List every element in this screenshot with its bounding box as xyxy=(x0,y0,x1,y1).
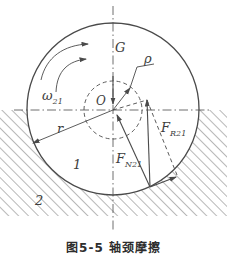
figure-caption: 图5-5 轴颈摩擦 xyxy=(0,241,227,254)
label-bearing: 2 xyxy=(34,193,43,208)
label-center: O xyxy=(96,94,106,108)
label-radius: r xyxy=(57,121,64,136)
label-rho: ρ xyxy=(143,51,152,66)
label-journal: 1 xyxy=(73,157,81,172)
figure-page: G ρ ω21 O r FN21 FR21 1 2 图5-5 轴颈摩擦 xyxy=(0,0,227,254)
label-load: G xyxy=(115,40,125,55)
journal-friction-diagram: G ρ ω21 O r FN21 FR21 1 2 xyxy=(0,0,227,254)
